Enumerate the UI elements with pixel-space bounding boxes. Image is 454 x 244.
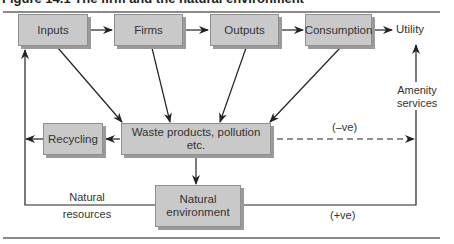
node-outputs: Outputs [210,14,279,46]
node-firms-label: Firms [134,24,163,37]
node-consumption: Consumption [305,14,372,46]
node-utility: Utility [396,23,424,36]
label-positive: (+ve) [330,209,355,222]
node-waste-label: Waste products, pollution etc. [122,126,270,152]
label-amenity-line2: services [397,97,437,110]
node-natural-environment-line2: environment [166,206,229,219]
node-waste: Waste products, pollution etc. [121,123,271,155]
node-natural-environment: Natural environment [155,185,241,227]
label-negative: (–ve) [332,121,357,134]
node-firms: Firms [114,14,183,46]
node-outputs-label: Outputs [224,24,264,37]
node-recycling-label: Recycling [48,133,98,146]
label-amenity-services: Amenity services [397,84,437,110]
label-natural-resources: Natural resources [62,190,112,222]
node-inputs: Inputs [18,14,88,46]
node-inputs-label: Inputs [37,24,68,37]
label-amenity-line1: Amenity [397,84,437,97]
label-natural-resources-line2: resources [62,207,112,222]
label-natural-resources-line1: Natural [62,190,112,205]
node-natural-environment-line1: Natural [179,193,216,206]
node-recycling: Recycling [43,123,103,155]
node-consumption-label: Consumption [305,24,373,37]
